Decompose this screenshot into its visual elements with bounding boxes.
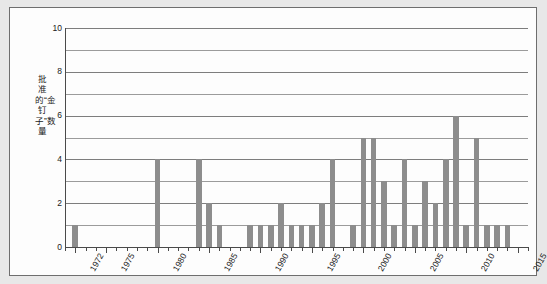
x-tick-minor [147, 248, 148, 251]
y-tick-label: 2 [40, 199, 62, 208]
x-tick-minor [394, 248, 395, 251]
x-tick-minor [507, 248, 508, 251]
bar [484, 225, 490, 247]
x-tick-label: 2010 [480, 252, 497, 273]
bar [247, 225, 253, 247]
bar [72, 225, 78, 247]
x-tick-minor [168, 248, 169, 251]
bar [361, 138, 367, 248]
x-tick-minor [116, 248, 117, 251]
x-tick-minor [250, 248, 251, 251]
x-tick-minor [322, 248, 323, 251]
y-tick-label: 0 [40, 243, 62, 252]
bar [155, 159, 161, 247]
x-tick-minor [353, 248, 354, 251]
x-tick-minor [178, 248, 179, 251]
x-tick-label: 1980 [171, 252, 188, 273]
x-tick-minor [343, 248, 344, 251]
bar [391, 225, 397, 247]
chart-card: 批准的“金钉子”数量 0246810 197219751980198519901… [9, 7, 537, 276]
x-tick-minor [65, 248, 66, 251]
x-tick-minor [497, 248, 498, 251]
y-tick-label: 4 [40, 155, 62, 164]
bar [412, 225, 418, 247]
x-tick-minor [137, 248, 138, 251]
x-tick-minor [86, 248, 87, 251]
bar [433, 203, 439, 247]
bar [319, 203, 325, 247]
bar [505, 225, 511, 247]
x-tick-minor [446, 248, 447, 251]
x-tick-minor [219, 248, 220, 251]
bar [443, 159, 449, 247]
x-tick-label: 2000 [377, 252, 394, 273]
bar [217, 225, 223, 247]
bar [309, 225, 315, 247]
x-tick-minor [528, 248, 529, 251]
chart-page: 批准的“金钉子”数量 0246810 197219751980198519901… [0, 0, 547, 284]
bar [196, 159, 202, 247]
x-tick-minor [188, 248, 189, 251]
y-tick-label: 6 [40, 111, 62, 120]
bar [330, 159, 336, 247]
bar [268, 225, 274, 247]
x-tick-label: 1990 [274, 252, 291, 273]
x-tick-minor [199, 248, 200, 251]
bar [453, 116, 459, 247]
x-tick-minor [240, 248, 241, 251]
x-tick-minor [425, 248, 426, 251]
bar [350, 225, 356, 247]
x-tick-minor [456, 248, 457, 251]
y-tick-label: 8 [40, 67, 62, 76]
x-tick-label: 1995 [325, 252, 342, 273]
bar [463, 225, 469, 247]
x-tick-minor [405, 248, 406, 251]
x-tick-label: 1975 [120, 252, 137, 273]
bar [381, 181, 387, 247]
x-tick-label: 1972 [89, 252, 106, 273]
x-tick-label: 1985 [222, 252, 239, 273]
bar [402, 159, 408, 247]
x-axis-tick-labels: 1972197519801985199019952000200520102015 [65, 252, 529, 284]
bar [371, 138, 377, 248]
x-tick-minor [302, 248, 303, 251]
bar [422, 181, 428, 247]
bar [494, 225, 500, 247]
bar [278, 203, 284, 247]
bar-series [65, 28, 529, 247]
x-tick-minor [271, 248, 272, 251]
x-tick-minor [477, 248, 478, 251]
bar [289, 225, 295, 247]
bar [474, 138, 480, 248]
x-tick-label: 2015 [531, 252, 547, 273]
y-tick-label: 10 [40, 24, 62, 33]
bar [258, 225, 264, 247]
x-tick-label: 2005 [428, 252, 445, 273]
x-tick-minor [291, 248, 292, 251]
bar [206, 203, 212, 247]
y-axis-ticks: 0246810 [37, 28, 62, 247]
x-tick-minor [374, 248, 375, 251]
bar [299, 225, 305, 247]
